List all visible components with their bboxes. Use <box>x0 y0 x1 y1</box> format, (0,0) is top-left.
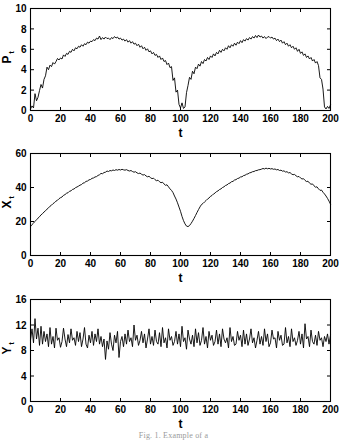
x-tick-label: 100 <box>172 113 189 124</box>
x-tick-label: 120 <box>202 258 219 269</box>
x-axis-title: t <box>179 417 183 431</box>
figure-caption: Fig. 1. Example of a <box>0 431 347 440</box>
plot-frame <box>31 300 331 402</box>
svg-text:X: X <box>0 200 14 208</box>
x-tick-label: 180 <box>292 113 309 124</box>
plot-Yt: 0204060801001201401601802000481216tYt <box>0 291 347 431</box>
y-tick-label: 16 <box>15 294 27 305</box>
chart-panel-yt: 0204060801001201401601802000481216tYt <box>0 291 347 431</box>
x-axis-title: t <box>179 271 183 285</box>
svg-text:Y: Y <box>0 346 14 354</box>
y-tick-label: 20 <box>15 216 27 227</box>
y-tick-label: 6 <box>21 44 27 55</box>
x-tick-label: 40 <box>85 113 97 124</box>
plot-frame <box>31 9 331 111</box>
y-tick-label: 12 <box>15 320 27 331</box>
x-tick-label: 20 <box>55 258 67 269</box>
x-tick-label: 40 <box>85 404 97 415</box>
figure-container: 0204060801001201401601802000246810tPt 02… <box>0 0 347 445</box>
x-tick-label: 40 <box>85 258 97 269</box>
x-tick-label: 180 <box>292 258 309 269</box>
data-series-Yt <box>31 319 331 360</box>
x-tick-label: 20 <box>55 113 67 124</box>
x-tick-label: 160 <box>262 258 279 269</box>
y-axis-title: Xt <box>0 196 16 209</box>
y-axis-title: Pt <box>0 51 16 64</box>
x-tick-label: 60 <box>115 113 127 124</box>
x-axis-title: t <box>179 126 183 140</box>
x-tick-label: 80 <box>145 258 157 269</box>
y-axis-title: Yt <box>0 342 16 355</box>
x-tick-label: 120 <box>202 404 219 415</box>
x-tick-label: 180 <box>292 404 309 415</box>
x-tick-label: 200 <box>322 404 339 415</box>
x-tick-label: 60 <box>115 258 127 269</box>
y-tick-label: 0 <box>21 105 27 116</box>
y-tick-label: 60 <box>15 148 27 159</box>
chart-panel-pt: 0204060801001201401601802000246810tPt <box>0 0 347 140</box>
x-tick-label: 160 <box>262 113 279 124</box>
y-tick-label: 10 <box>15 3 27 14</box>
y-axis-title-subscript: t <box>7 342 16 345</box>
plot-Pt: 0204060801001201401601802000246810tPt <box>0 0 347 140</box>
chart-panel-xt: 0204060801001201401601802000204060tXt <box>0 145 347 285</box>
y-tick-label: 2 <box>21 85 27 96</box>
data-series-Xt <box>31 168 331 226</box>
y-tick-label: 8 <box>21 24 27 35</box>
x-tick-label: 0 <box>28 113 34 124</box>
plot-frame <box>31 154 331 256</box>
x-tick-label: 0 <box>28 404 34 415</box>
x-tick-label: 200 <box>322 258 339 269</box>
x-tick-label: 100 <box>172 404 189 415</box>
plot-Xt: 0204060801001201401601802000204060tXt <box>0 145 347 285</box>
y-axis-title-subscript: t <box>7 196 16 199</box>
x-tick-label: 80 <box>145 404 157 415</box>
y-axis-title-subscript: t <box>7 51 16 54</box>
x-tick-label: 140 <box>232 258 249 269</box>
x-tick-label: 0 <box>28 258 34 269</box>
y-tick-label: 4 <box>21 64 27 75</box>
x-tick-label: 60 <box>115 404 127 415</box>
x-tick-label: 120 <box>202 113 219 124</box>
x-tick-label: 100 <box>172 258 189 269</box>
svg-text:P: P <box>0 55 14 63</box>
x-tick-label: 140 <box>232 113 249 124</box>
x-tick-label: 20 <box>55 404 67 415</box>
x-tick-label: 200 <box>322 113 339 124</box>
y-tick-label: 4 <box>21 371 27 382</box>
y-tick-label: 0 <box>21 396 27 407</box>
y-tick-label: 0 <box>21 250 27 261</box>
y-tick-label: 40 <box>15 182 27 193</box>
x-tick-label: 140 <box>232 404 249 415</box>
x-tick-label: 80 <box>145 113 157 124</box>
data-series-Pt <box>31 35 331 109</box>
x-tick-label: 160 <box>262 404 279 415</box>
y-tick-label: 8 <box>21 345 27 356</box>
